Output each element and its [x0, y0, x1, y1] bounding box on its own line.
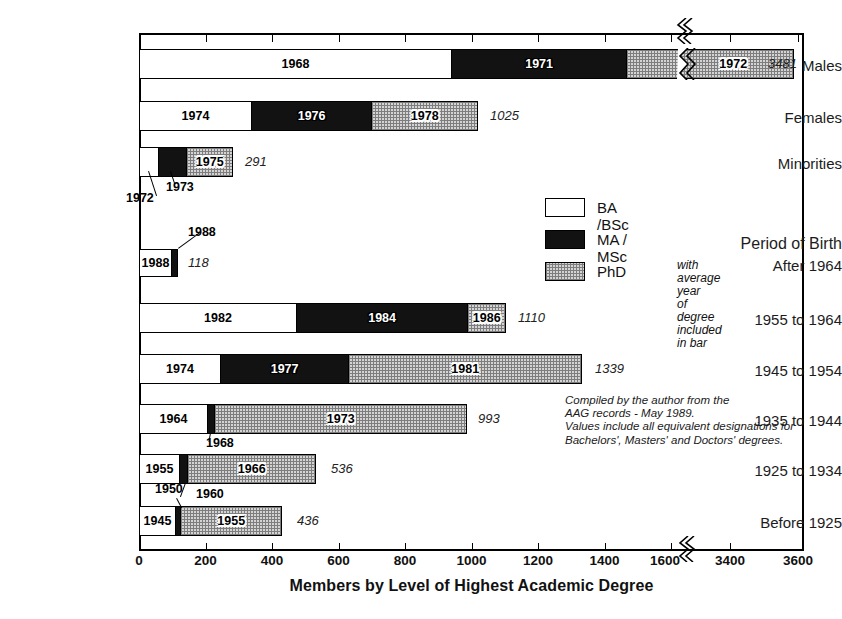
- bar-segment-ba: 1988: [139, 249, 172, 277]
- source-note-line1: Compiled by the author from the: [565, 394, 794, 407]
- row-label-before-1925: Before 1925: [710, 515, 842, 530]
- x-axis-tick-labels: 0 200 400 600 800 1000 1200 1400 1600 34…: [0, 554, 842, 572]
- source-note: Compiled by the author from the AAG reco…: [565, 394, 794, 447]
- bar-minorities: 1975: [139, 147, 233, 177]
- segment-year-label: 1977: [271, 363, 299, 375]
- bar-total-males: 3481: [768, 49, 797, 79]
- segment-year-label: 1955: [217, 515, 245, 527]
- bar-segment-ba: 1964: [139, 404, 208, 434]
- callout-minorities-ma: 1973: [166, 181, 194, 193]
- segment-year-label: 1988: [142, 257, 170, 269]
- callout-minorities-ba: 1972: [126, 192, 154, 204]
- segment-year-label: 1955: [146, 463, 174, 475]
- bar-total-1955-1964: 1110: [518, 303, 545, 333]
- segment-year-label: 1976: [298, 110, 326, 122]
- bar-segment-phd: 1986: [467, 303, 506, 333]
- segment-year-label: 1973: [327, 413, 355, 425]
- bar-total-1935-1944: 993: [478, 404, 500, 434]
- legend-note: with average year of degree included in …: [677, 259, 722, 350]
- segment-year-label: 1978: [411, 110, 439, 122]
- x-axis-title: Members by Level of Highest Academic Deg…: [139, 577, 804, 595]
- segment-year-label: 1972: [719, 58, 747, 70]
- bar-segment-ma: 1984: [296, 303, 469, 333]
- x-tick-label: 400: [261, 554, 284, 568]
- bar-segment-ba: 1982: [139, 303, 297, 333]
- row-label-1955-1964: 1955 to 1964: [710, 312, 842, 327]
- segment-year-label: 1982: [204, 312, 232, 324]
- bar-segment-phd: 1973: [214, 404, 467, 434]
- row-label-females: Females: [710, 110, 842, 125]
- bar-segment-ba: 1974: [139, 101, 252, 131]
- bar-males: 1968 1971 1972: [139, 49, 794, 79]
- x-tick-label: 1000: [456, 554, 486, 568]
- callout-after-1964-ma: 1988: [188, 226, 216, 238]
- segment-year-label: 1966: [238, 463, 266, 475]
- source-note-line3: Values include all equivalent designatio…: [565, 420, 794, 433]
- x-tick-label: 800: [394, 554, 417, 568]
- bar-total-before-1925: 436: [297, 506, 319, 536]
- bar-1935-1944: 1964 1973: [139, 404, 467, 434]
- segment-year-label: 1971: [525, 58, 553, 70]
- bar-segment-ma: 1976: [251, 101, 373, 131]
- bar-segment-phd: 1975: [186, 147, 233, 177]
- bar-1925-1934: 1955 1966: [139, 454, 316, 484]
- bar-total-females: 1025: [490, 101, 519, 131]
- bar-segment-phd: 1955: [180, 506, 282, 536]
- bar-segment-ba: 1955: [139, 454, 180, 484]
- bar-segment-ma: 1971: [451, 49, 628, 79]
- legend-label-ma: MA / MSc: [597, 231, 627, 265]
- bar-segment-ba: 1974: [139, 354, 221, 384]
- segment-year-label: 1968: [282, 58, 310, 70]
- segment-year-label: 1975: [196, 156, 224, 168]
- segment-year-label: 1974: [166, 363, 194, 375]
- x-tick-label: 1200: [523, 554, 553, 568]
- segment-year-label: 1984: [368, 312, 396, 324]
- callout-1935-1944-ma: 1968: [206, 437, 234, 449]
- segment-year-label: 1945: [144, 515, 172, 527]
- x-tick-label: 3600: [783, 554, 813, 568]
- legend-swatch-ma-icon: [545, 230, 585, 249]
- bar-1945-1954: 1974 1977 1981: [139, 354, 582, 384]
- legend-label-ba: BA /BSc: [597, 199, 629, 233]
- source-note-line4: Bachelors', Masters' and Doctors' degree…: [565, 434, 794, 447]
- row-label-1945-1954: 1945 to 1954: [710, 363, 842, 378]
- bar-segment-ma: [158, 147, 188, 177]
- row-label-minorities: Minorities: [710, 156, 842, 171]
- callout-before-1925-ma: 1950: [155, 483, 183, 495]
- x-tick-label: 1400: [589, 554, 619, 568]
- segment-year-label: 1964: [160, 413, 188, 425]
- bar-before-1925: 1945 1955: [139, 506, 282, 536]
- bar-segment-ma: [171, 249, 178, 277]
- bar-segment-ba: 1968: [139, 49, 452, 79]
- chart-container: Males 1968 1971 1972 3481 Females 1974 1…: [0, 0, 842, 619]
- legend-swatch-ba-icon: [545, 198, 585, 217]
- legend-note-line1: with average year: [677, 259, 722, 298]
- legend-note-line2: of degree included in bar: [677, 298, 722, 350]
- bar-segment-phd: 1981: [348, 354, 582, 384]
- callout-1925-1934-ma: 1960: [196, 488, 224, 500]
- segment-year-label: 1986: [473, 312, 501, 324]
- x-tick-label: 0: [135, 554, 143, 568]
- bar-total-1925-1934: 536: [331, 454, 353, 484]
- x-tick-label: 600: [327, 554, 350, 568]
- bar-segment-phd: 1978: [371, 101, 478, 131]
- source-note-line2: AAG records - May 1989.: [565, 407, 794, 420]
- x-tick-label: 3400: [715, 554, 745, 568]
- bar-total-1945-1954: 1339: [595, 354, 624, 384]
- segment-year-label: 1974: [182, 110, 210, 122]
- bar-after-1964: 1988: [139, 249, 178, 277]
- row-label-1925-1934: 1925 to 1934: [710, 463, 842, 478]
- segment-year-label: 1981: [451, 363, 479, 375]
- bar-1955-1964: 1982 1984 1986: [139, 303, 506, 333]
- bar-segment-ba: 1945: [139, 506, 176, 536]
- top-axis-ticks: [139, 33, 804, 42]
- bar-segment-phd: 1966: [187, 454, 316, 484]
- legend-label-phd: PhD: [597, 263, 626, 280]
- bar-females: 1974 1976 1978: [139, 101, 478, 131]
- bar-total-minorities: 291: [245, 147, 267, 177]
- x-tick-label: 200: [194, 554, 217, 568]
- group-header-period-of-birth: Period of Birth: [710, 236, 842, 251]
- x-tick-label: 1600: [650, 554, 680, 568]
- bottom-axis-ticks: [139, 543, 804, 551]
- row-label-after-1964: After 1964: [710, 258, 842, 273]
